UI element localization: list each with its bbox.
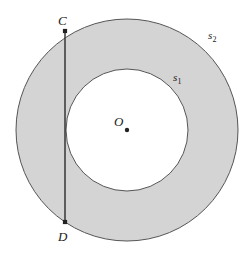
label-outer-circle-subscript: 2 [212, 35, 216, 44]
label-point-c: C [58, 14, 67, 27]
label-outer-circle-s2: s2 [208, 30, 216, 44]
label-inner-circle-subscript: 1 [177, 77, 181, 86]
label-point-d: D [58, 230, 67, 243]
center-point-marker [125, 128, 129, 132]
point-marker-c [63, 29, 67, 33]
label-center-o: O [114, 115, 123, 128]
geometry-figure: C D O s1 s2 [0, 0, 250, 255]
label-inner-circle-s1: s1 [173, 72, 181, 86]
point-marker-d [63, 220, 67, 224]
